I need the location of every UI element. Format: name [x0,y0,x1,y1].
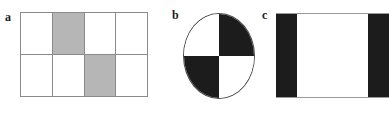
grid-cell-r2c3 [85,55,116,96]
panel-c: c [262,0,389,115]
circle-quadrant-top-right [219,14,254,56]
grid-cell-r1c3 [85,13,116,54]
grid-cell-r2c1 [21,55,52,96]
grid-cell-r1c2 [53,13,84,54]
band-center [297,14,367,97]
panel-b-circle [183,13,255,99]
panel-c-label: c [262,9,267,21]
grid-cell-r1c1 [21,13,52,54]
panel-a: a [0,0,170,115]
panel-b: b [170,0,262,115]
circle-quadrant-top-left [184,14,219,56]
circle-quadrant-bottom-right [219,56,254,98]
panel-a-grid [20,12,148,97]
panel-b-label: b [172,9,179,21]
band-left [276,14,297,97]
grid-cell-r1c4 [116,13,147,54]
figure-root: a b c [0,0,389,115]
panel-a-label: a [5,11,11,23]
circle-quadrant-bottom-left [184,56,219,98]
panel-c-bands [276,13,389,98]
grid-cell-r2c2 [53,55,84,96]
grid-cell-r2c4 [116,55,147,96]
band-right [368,14,389,97]
